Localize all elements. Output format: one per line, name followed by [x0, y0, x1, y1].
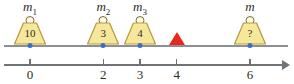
weight-position-dot — [248, 43, 253, 48]
weight-value: 4 — [137, 27, 143, 39]
balance-beam-diagram: m110m23m34m? 02346 — [0, 0, 294, 84]
mass-label-m: m — [245, 0, 254, 13]
axis-tick — [249, 59, 251, 66]
weight-value: 3 — [101, 27, 107, 39]
weight-position-dot — [101, 43, 106, 48]
axis-tick-label: 0 — [27, 68, 34, 82]
axis-tick-label: 2 — [100, 68, 107, 82]
mass-label-subscript: 1 — [32, 7, 37, 17]
weight-value: 10 — [25, 27, 36, 39]
weight-position-dot — [28, 43, 33, 48]
axis-tick — [29, 59, 31, 66]
number-line — [4, 64, 286, 66]
axis-arrow-icon — [282, 60, 290, 70]
axis-tick — [176, 59, 178, 66]
axis-tick — [103, 59, 105, 66]
mass-label-subscript: 3 — [142, 7, 147, 17]
weight-value: ? — [248, 27, 253, 39]
axis-tick-label: 3 — [137, 68, 144, 82]
mass-label-subscript: 2 — [106, 7, 111, 17]
beam-line — [4, 45, 288, 47]
axis-tick-label: 6 — [247, 68, 254, 82]
axis-tick — [139, 59, 141, 66]
axis-tick-label: 4 — [173, 68, 180, 82]
weight-position-dot — [138, 43, 143, 48]
fulcrum-triangle-icon — [169, 32, 185, 45]
